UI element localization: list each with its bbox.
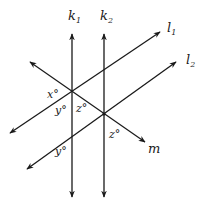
angle-label-y-upper: y°	[54, 104, 67, 117]
label-k1: k1	[68, 8, 81, 25]
label-l1: l1	[167, 20, 176, 37]
label-l1-sub: 1	[171, 28, 176, 37]
geometry-diagram: k1 k2 l1 l2 m x° y° z° z° y°	[0, 0, 207, 209]
label-k1-sub: 1	[76, 16, 81, 25]
line-l1	[10, 32, 160, 133]
label-m: m	[148, 141, 160, 156]
angle-label-y-lower: y°	[54, 145, 67, 158]
label-k2-sub: 2	[107, 16, 113, 25]
angle-label-z-upper: z°	[75, 102, 87, 115]
label-k2-main: k	[100, 8, 108, 23]
label-k2: k2	[100, 8, 113, 25]
angle-label-x: x°	[47, 88, 59, 101]
label-l2: l2	[186, 52, 195, 69]
angle-label-z-lower: z°	[108, 128, 120, 141]
label-l2-sub: 2	[189, 60, 195, 69]
line-m	[30, 62, 145, 142]
intersection-point	[102, 112, 105, 115]
label-k1-main: k	[68, 8, 76, 23]
